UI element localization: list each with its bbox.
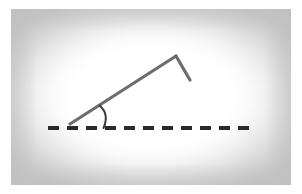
inclined-ray-line — [70, 56, 176, 124]
short-descending-segment-line — [176, 56, 190, 80]
geometry-drawing — [0, 0, 302, 194]
angle-figure-image — [0, 0, 302, 194]
angle-arc-marker — [100, 106, 106, 129]
